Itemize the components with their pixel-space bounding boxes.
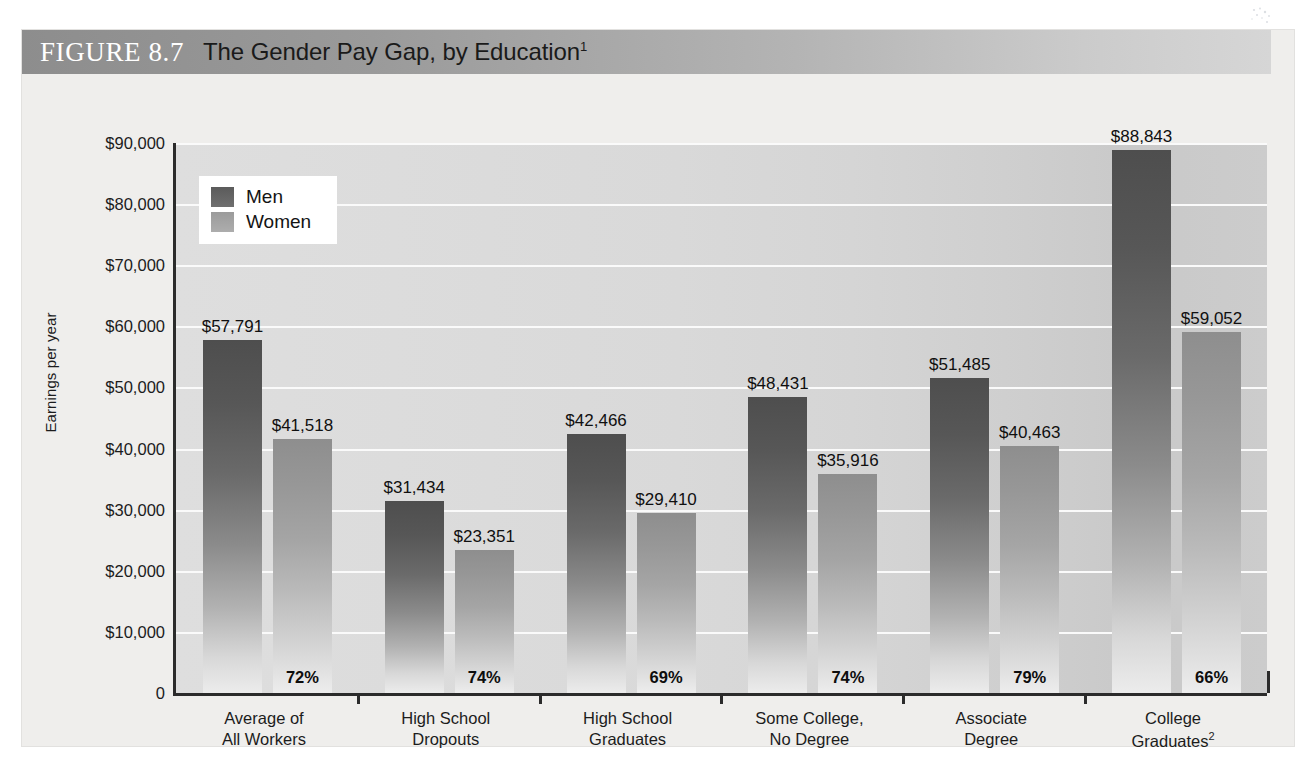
figure-title-text: The Gender Pay Gap, by Education xyxy=(203,38,580,65)
bar-groups: $57,791$41,51872%$31,434$23,35174%$42,46… xyxy=(176,143,1267,693)
x-label-line-1: Average of xyxy=(173,708,355,729)
bar-men[interactable]: $57,791 xyxy=(203,340,262,693)
bar-group: $51,485$40,46379% xyxy=(903,143,1085,693)
bar-value-label: $41,518 xyxy=(272,416,333,436)
x-axis-category-labels: Average ofAll WorkersHigh SchoolDropouts… xyxy=(173,708,1264,752)
page-speckle-mark xyxy=(1249,6,1279,28)
chart-area: Earnings per year $90,000$80,000$70,000$… xyxy=(22,74,1294,746)
figure-container: FIGURE 8.7 The Gender Pay Gap, by Educat… xyxy=(22,30,1294,746)
bar-women[interactable]: $23,35174% xyxy=(455,550,514,693)
x-label-line-1: College xyxy=(1082,708,1264,729)
x-label-line-2: No Degree xyxy=(718,729,900,750)
legend-item[interactable]: Women xyxy=(211,211,311,233)
ratio-label: 72% xyxy=(286,668,319,687)
legend-label: Women xyxy=(246,211,311,233)
bar-group: $31,434$23,35174% xyxy=(358,143,540,693)
bar-men[interactable]: $88,843 xyxy=(1112,150,1171,693)
figure-title: The Gender Pay Gap, by Education1 xyxy=(203,38,587,66)
legend-label: Men xyxy=(246,186,283,208)
x-axis-category-label: High SchoolDropouts xyxy=(355,708,537,752)
x-axis-category-label: High SchoolGraduates xyxy=(537,708,719,752)
x-axis-tick xyxy=(720,693,723,704)
bar-women[interactable]: $41,51872% xyxy=(273,439,332,693)
x-axis-tick xyxy=(1084,693,1087,704)
bar-value-label: $31,434 xyxy=(384,478,445,498)
figure-number: FIGURE 8.7 xyxy=(40,37,184,68)
bar-women[interactable]: $35,91674% xyxy=(818,474,877,693)
ratio-label: 79% xyxy=(1013,668,1046,687)
bar-value-label: $29,410 xyxy=(635,490,696,510)
figure-header-bar: FIGURE 8.7 The Gender Pay Gap, by Educat… xyxy=(22,30,1271,74)
bar-value-label: $51,485 xyxy=(929,355,990,375)
bar-men[interactable]: $48,431 xyxy=(748,397,807,693)
ratio-label: 66% xyxy=(1195,668,1228,687)
bar-men[interactable]: $42,466 xyxy=(567,434,626,694)
y-axis-tick-labels: $90,000$80,000$70,000$60,000$50,000$40,0… xyxy=(50,74,165,694)
bar-men[interactable]: $51,485 xyxy=(930,378,989,693)
bar-women[interactable]: $40,46379% xyxy=(1000,446,1059,693)
x-label-line-2: All Workers xyxy=(173,729,355,750)
x-label-line-1: High School xyxy=(537,708,719,729)
y-axis-tick-label: $70,000 xyxy=(50,256,165,275)
bar-group: $48,431$35,91674% xyxy=(721,143,903,693)
y-axis-tick-label: $20,000 xyxy=(50,561,165,580)
x-label-line-2: Graduates2 xyxy=(1082,729,1264,752)
axis-right-stub xyxy=(1267,671,1270,693)
bar-group: $88,843$59,05266% xyxy=(1085,143,1267,693)
y-axis-tick-label: $60,000 xyxy=(50,317,165,336)
x-axis-tick xyxy=(902,693,905,704)
x-axis-tick xyxy=(357,693,360,704)
ratio-label: 74% xyxy=(468,668,501,687)
ratio-label: 69% xyxy=(650,668,683,687)
figure-title-superscript: 1 xyxy=(580,39,587,54)
bar-value-label: $57,791 xyxy=(202,317,263,337)
x-axis-category-label: Average ofAll Workers xyxy=(173,708,355,752)
bar-value-label: $88,843 xyxy=(1111,127,1172,147)
x-label-line-1: High School xyxy=(355,708,537,729)
bar-value-label: $40,463 xyxy=(999,423,1060,443)
y-axis-tick-label: $40,000 xyxy=(50,439,165,458)
x-axis-category-label: CollegeGraduates2 xyxy=(1082,708,1264,752)
bar-men[interactable]: $31,434 xyxy=(385,501,444,693)
bar-value-label: $23,351 xyxy=(454,527,515,547)
x-axis-category-label: Some College,No Degree xyxy=(718,708,900,752)
x-label-line-2: Degree xyxy=(900,729,1082,750)
bar-women[interactable]: $29,41069% xyxy=(637,513,696,693)
y-axis-tick-label: 0 xyxy=(50,684,165,703)
x-label-line-2: Graduates xyxy=(537,729,719,750)
y-axis-tick-label: $80,000 xyxy=(50,195,165,214)
ratio-label: 74% xyxy=(831,668,864,687)
x-axis-category-label: AssociateDegree xyxy=(900,708,1082,752)
x-label-superscript: 2 xyxy=(1209,730,1215,742)
bar-value-label: $42,466 xyxy=(565,411,626,431)
x-label-line-1: Associate xyxy=(900,708,1082,729)
bar-value-label: $59,052 xyxy=(1181,309,1242,329)
bar-group: $42,466$29,41069% xyxy=(540,143,722,693)
y-axis-tick-label: $90,000 xyxy=(50,134,165,153)
x-axis-tick xyxy=(539,693,542,704)
chart-legend: MenWomen xyxy=(199,176,337,244)
y-axis-tick-label: $30,000 xyxy=(50,500,165,519)
x-label-line-1: Some College, xyxy=(718,708,900,729)
y-axis-tick-label: $10,000 xyxy=(50,622,165,641)
bar-value-label: $35,916 xyxy=(817,451,878,471)
x-label-line-2: Dropouts xyxy=(355,729,537,750)
bar-women[interactable]: $59,05266% xyxy=(1182,332,1241,693)
bar-value-label: $48,431 xyxy=(747,374,808,394)
y-axis-tick-label: $50,000 xyxy=(50,378,165,397)
legend-swatch-women xyxy=(211,212,234,232)
legend-swatch-men xyxy=(211,187,234,207)
legend-item[interactable]: Men xyxy=(211,186,311,208)
